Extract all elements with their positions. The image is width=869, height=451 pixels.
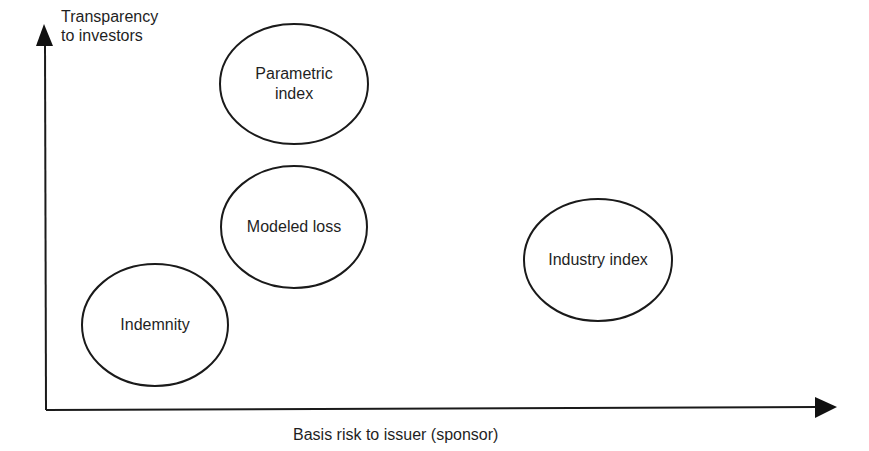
x-axis <box>46 407 818 410</box>
bubble-label-line: index <box>275 84 313 104</box>
x-axis-arrow-icon <box>815 397 837 418</box>
bubble-label-indemnity: Indemnity <box>82 264 228 386</box>
y-axis <box>45 42 46 410</box>
y-axis-label-line-2: to investors <box>61 26 158 45</box>
bubble-label-parametric: Parametricindex <box>220 24 368 144</box>
bubble-label-modeled: Modeled loss <box>221 166 367 288</box>
y-axis-arrow-icon <box>36 24 53 46</box>
x-axis-label: Basis risk to issuer (sponsor) <box>293 425 498 444</box>
bubble-label-line: Indemnity <box>120 315 189 335</box>
bubble-label-line: Industry index <box>548 250 648 270</box>
y-axis-label: Transparency to investors <box>61 7 158 45</box>
y-axis-label-line-1: Transparency <box>61 7 158 26</box>
bubble-label-line: Modeled loss <box>247 217 341 237</box>
bubble-label-industry: Industry index <box>524 199 672 321</box>
diagram-canvas: Transparency to investors Basis risk to … <box>0 0 869 451</box>
bubble-label-line: Parametric <box>255 64 332 84</box>
